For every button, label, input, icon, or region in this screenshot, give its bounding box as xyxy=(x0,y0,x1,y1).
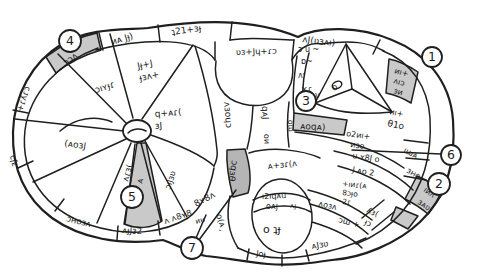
callout-7-number: 7 xyxy=(188,240,196,255)
band-tick xyxy=(230,22,232,40)
label-q1a: иı+ xyxy=(389,107,405,119)
label-rw2: ɔɯ + xyxy=(337,215,360,229)
label-rr4: J ᴀo 2 xyxy=(351,165,375,178)
label-rr1a: o2иı+ xyxy=(346,129,371,141)
label-c3: oи xyxy=(262,134,271,144)
callout-4: 4 xyxy=(59,30,81,52)
label-t5: ʋɜ+Jɥ+ɾɔ xyxy=(236,46,278,57)
rim-tick xyxy=(18,161,33,168)
oval-top-band xyxy=(249,149,320,158)
label-g4: ᴀoqᴀ) xyxy=(300,121,326,132)
callout-5-number: 5 xyxy=(128,189,136,204)
label-w4a: q+ᴀɾ( xyxy=(154,107,182,119)
band-tick xyxy=(158,25,160,42)
label-r1: +ɾʎɾɔ xyxy=(14,85,32,113)
oval-left-band xyxy=(228,196,238,248)
rim-tick xyxy=(117,226,118,240)
label-rw4: ɟɔ xyxy=(362,217,373,228)
label-w6: ɔıJɜʋ xyxy=(162,169,177,190)
callout-2: 2 xyxy=(428,173,450,195)
label-w3: (ᴀoɜJ xyxy=(64,138,87,151)
label-ov7: 8ʏ8ʌ xyxy=(192,189,217,209)
label-w1b: ɟɜʌ+ xyxy=(137,69,160,83)
wheel-rim-inner xyxy=(24,48,214,232)
right-rim-tick xyxy=(406,158,429,160)
bottom-oval xyxy=(248,176,315,256)
callout-3: 3 xyxy=(296,91,316,111)
dome-shape xyxy=(215,60,293,105)
wheel-right-edge xyxy=(195,46,217,166)
label-r4: ᴀɟJɜ2 xyxy=(122,225,142,236)
label-ov1: ᴀ+ɜɾ(ʌ xyxy=(267,158,297,171)
squiggle-2: ɒ~ xyxy=(301,57,313,66)
label-w2: ɔıʏɟɾ xyxy=(94,79,116,95)
band-divider xyxy=(230,38,294,40)
spoke-curved xyxy=(148,134,214,166)
label-ov2: ı2ıqᴀu xyxy=(262,191,287,201)
callout-3-number: 3 xyxy=(302,93,310,108)
label-r2: ɜJɔ xyxy=(6,154,18,168)
label-c1: ʌɜoɥɔ xyxy=(222,101,234,128)
callout-7: 7 xyxy=(181,237,203,259)
label-w4b: ɜJ xyxy=(154,120,162,131)
squiggle-3: ʌʳ xyxy=(298,71,306,80)
label-q1b: θ1o xyxy=(387,118,406,131)
callout-1-number: 1 xyxy=(428,49,436,64)
label-rw6: Joɟ xyxy=(255,249,267,259)
callout-1: 1 xyxy=(422,47,442,67)
label-ov5: o ʇɟ xyxy=(263,223,281,236)
column2-left xyxy=(247,106,253,149)
cross-section-diagram: ɔɔʌ иᴀ Jɟ) ʇ21+ɜɟ ʌJ(ʋɜʌı) ʋɜ+Jɥ+ɾɔ +ɾʎɾ… xyxy=(0,0,482,279)
label-ov4: ᴀɟ xyxy=(290,202,296,210)
callout-2-number: 2 xyxy=(435,176,443,191)
bottom-band-tick xyxy=(247,249,249,260)
label-rw1: ʌoɜʌ xyxy=(318,199,338,212)
label-bk3: 2ɾ xyxy=(342,197,352,207)
callout-4-number: 4 xyxy=(66,33,74,48)
callout-6-number: 6 xyxy=(447,147,455,162)
label-r6: иʜ xyxy=(194,215,206,226)
label-c2: qᴀJ xyxy=(260,106,270,120)
label-r3: ɔʜoɜʌ xyxy=(66,213,93,229)
pyramid-shape xyxy=(315,44,392,113)
diagram-canvas: ɔɔʌ иᴀ Jɟ) ʇ21+ɜɟ ʌJ(ʋɜʌı) ʋɜ+Jɥ+ɾɔ +ɾʎɾ… xyxy=(0,0,482,279)
label-c4: oɯ xyxy=(286,120,295,132)
label-w1a: Jɟ+J xyxy=(135,58,153,71)
hub xyxy=(123,120,151,142)
label-ov6: o(ᴀ¸ xyxy=(214,213,229,233)
callout-5: 5 xyxy=(121,186,143,208)
squiggle-1: ɔ u ~ xyxy=(298,45,319,54)
label-layer: ɔɔʌ иᴀ Jɟ) ʇ21+ɜɟ ʌJ(ʋɜʌı) ʋɜ+Jɥ+ɾɔ +ɾʎɾ… xyxy=(6,23,437,259)
callout-6: 6 xyxy=(441,145,461,165)
label-ov3: oᴀɟ xyxy=(266,202,279,211)
label-rw5: ᴀJɜʋ xyxy=(311,238,330,251)
oval-divider xyxy=(254,206,311,212)
shaded-region-small xyxy=(391,207,418,229)
label-tri: o xyxy=(330,81,339,92)
right-rim-tick xyxy=(404,140,428,143)
